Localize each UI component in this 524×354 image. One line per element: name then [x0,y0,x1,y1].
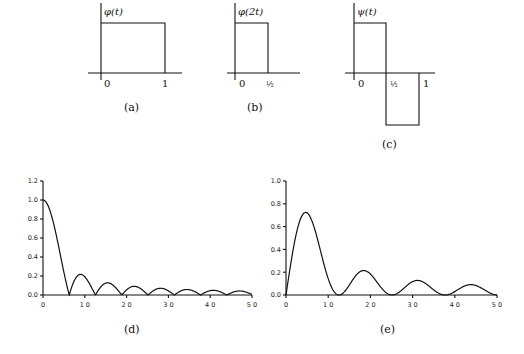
x-tick-label: 1 0 [323,301,333,309]
y-tick-label: 1.0 [28,196,38,204]
curve [43,200,252,295]
x-tick-label: 2 0 [365,301,375,309]
x-tick-label: 5 0 [247,301,257,309]
x-tick-label: 2 0 [121,301,131,309]
y-tick-label: 0.4 [28,253,38,261]
x-tick-label: 1 0 [80,301,90,309]
panel-a: φ(t) 0 1 (a) [88,3,182,114]
caption-d: (d) [124,323,140,336]
tick-0: 0 [104,78,110,89]
x-tick-label: 0 [284,301,288,309]
y-tick-label: 0.4 [271,246,281,254]
x-tick-label: 3 0 [407,301,417,309]
y-tick-label: 1.0 [271,177,281,185]
y-tick-label: 0.6 [271,223,281,231]
x-tick-label: 3 0 [163,301,173,309]
panel-e: 0.00.20.40.60.81.001 02 03 04 05 0 [271,177,503,309]
psi-wave [354,23,419,125]
curve [286,212,497,295]
y-tick-label: 0.6 [28,234,38,242]
y-tick-label: 0.8 [271,200,281,208]
psi-label: ψ(t) [357,6,377,17]
y-tick-label: 0.2 [28,272,38,280]
y-tick-label: 0.8 [28,215,38,223]
y-tick-label: 0.0 [271,291,281,299]
phi2t-label: φ(2t) [238,6,263,17]
caption-b: (b) [247,101,263,114]
panel-c: ψ(t) 0 ½ 1 (c) [345,3,435,151]
x-tick-label: 5 0 [492,301,502,309]
x-tick-label: 4 0 [450,301,460,309]
y-tick-label: 0.2 [271,269,281,277]
caption-e: (e) [380,323,395,336]
panel-b: φ(2t) 0 ½ (b) [227,3,300,114]
y-tick-label: 1.2 [28,177,38,185]
tick-1: 1 [162,78,168,89]
panel-d: 0.00.20.40.60.81.01.201 02 03 04 05 0 [28,177,258,309]
phi2t-box [235,23,268,73]
tick-half: ½ [266,80,274,89]
tick-0: 0 [358,78,364,89]
phi-box [101,23,165,73]
tick-1: 1 [423,78,429,89]
y-tick-label: 0.0 [28,291,38,299]
x-tick-label: 0 [41,301,45,309]
tick-0: 0 [239,78,245,89]
phi-label: φ(t) [104,6,123,17]
tick-half: ½ [390,80,398,89]
caption-a: (a) [124,101,139,114]
caption-c: (c) [382,138,397,151]
figure: φ(t) 0 1 (a) φ(2t) 0 ½ (b) ψ(t) 0 ½ 1 (c… [0,0,524,354]
x-tick-label: 4 0 [205,301,215,309]
